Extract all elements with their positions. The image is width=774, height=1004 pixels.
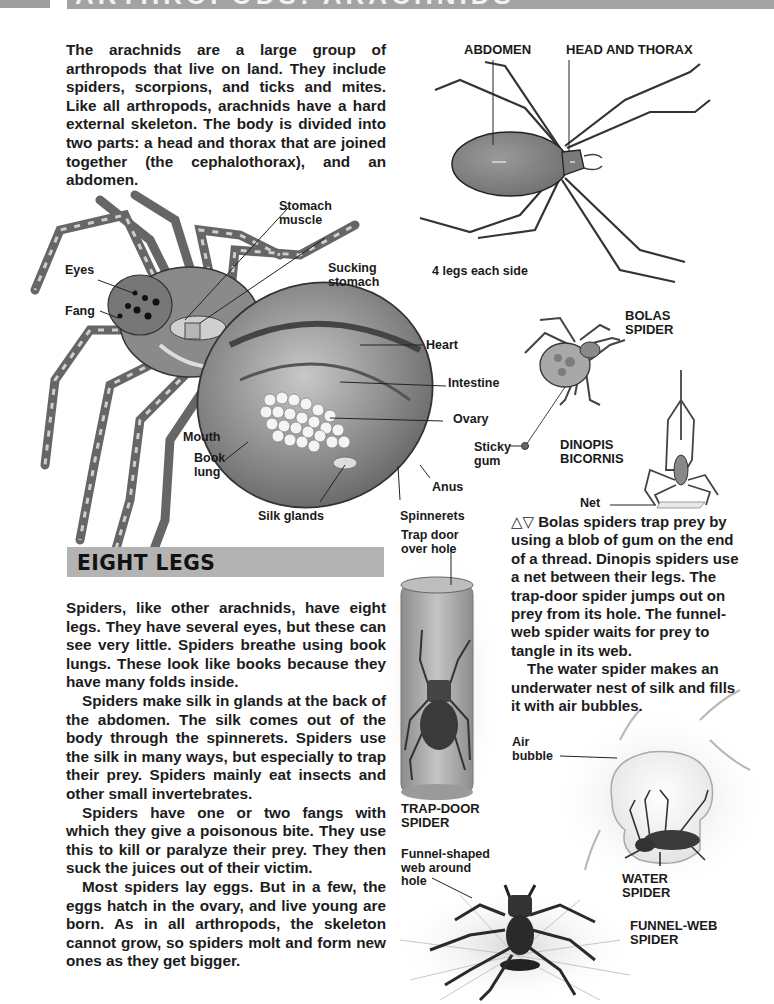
label-spinnerets: Spinnerets xyxy=(400,510,465,524)
label-trap-door: Trap door over hole xyxy=(401,529,459,556)
bolas-spider xyxy=(510,318,625,450)
label-fang: Fang xyxy=(65,305,95,319)
section-title: EIGHT LEGS xyxy=(77,550,215,575)
label-water-spider: WATER SPIDER xyxy=(622,872,670,900)
label-book-lung: Book lung xyxy=(194,452,225,479)
label-net: Net xyxy=(580,497,600,511)
label-dinopis-bicornis: DINOPIS BICORNIS xyxy=(560,438,624,466)
label-air-bubble: Air bubble xyxy=(512,736,553,763)
label-sucking-stomach: Sucking stomach xyxy=(328,262,379,289)
label-bolas-spider: BOLAS SPIDER xyxy=(625,309,673,337)
funnel-web-spider xyxy=(390,878,640,1004)
trapdoor-spider xyxy=(375,540,505,840)
label-funnel-web: Funnel-shaped web around hole xyxy=(401,848,490,889)
paragraph: Spiders have one or two fangs with which… xyxy=(66,804,386,878)
dinopis-spider xyxy=(610,370,718,508)
label-trap-door-spider: TRAP-DOOR SPIDER xyxy=(401,802,480,830)
paragraph: Spiders make silk in glands at the back … xyxy=(66,692,386,804)
label-anus: Anus xyxy=(432,481,463,495)
label-stomach-muscle: Stomach muscle xyxy=(279,200,332,227)
label-eyes: Eyes xyxy=(65,264,94,278)
label-legs-note: 4 legs each side xyxy=(432,265,528,279)
label-funnel-web-spider: FUNNEL-WEB SPIDER xyxy=(630,919,717,947)
label-head-thorax: HEAD AND THORAX xyxy=(566,43,693,57)
section-body: Spiders, like other arachnids, have eigh… xyxy=(66,599,386,971)
water-spider xyxy=(550,690,770,895)
abdomen-shape xyxy=(452,132,568,196)
label-mouth: Mouth xyxy=(183,431,220,445)
paragraph: Most spiders lay eggs. But in a few, the… xyxy=(66,878,386,971)
label-intestine: Intestine xyxy=(448,377,499,391)
label-abdomen: ABDOMEN xyxy=(464,43,531,57)
label-sticky-gum: Sticky gum xyxy=(474,441,511,468)
paragraph: Spiders, like other arachnids, have eigh… xyxy=(66,599,386,692)
label-silk-glands: Silk glands xyxy=(258,510,324,524)
intro-paragraph: The arachnids are a large group of arthr… xyxy=(66,41,386,190)
label-heart: Heart xyxy=(426,339,458,353)
label-ovary: Ovary xyxy=(453,413,488,427)
section-header-bar: EIGHT LEGS xyxy=(67,547,384,577)
figure-caption: △▽ Bolas spiders trap prey by using a bl… xyxy=(511,513,743,715)
